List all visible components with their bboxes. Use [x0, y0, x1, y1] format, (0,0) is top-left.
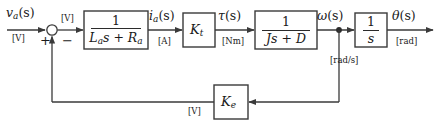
mechanical-denominator: Js + D — [266, 32, 306, 45]
summing-plus-sign: + — [40, 33, 51, 48]
unit-label-feedback: [V] — [188, 107, 201, 116]
unit-label-speed: [rad/s] — [330, 56, 358, 65]
unit-label-position: [rad] — [396, 37, 417, 46]
signal-label-current: ia(s) — [149, 10, 175, 24]
signal-torque-main: τ — [218, 8, 225, 23]
signal-position-tail: (s) — [400, 8, 416, 23]
torque-constant-main: K — [190, 22, 200, 37]
electrical-denominator: Las + Ra — [89, 31, 142, 46]
signal-label-input: va(s) — [6, 7, 35, 21]
summing-minus-sign: − — [62, 33, 73, 48]
unit-label-current: [A] — [158, 37, 171, 46]
block-electrical: 1 Las + Ra — [86, 13, 146, 47]
signal-input-tail: (s) — [18, 5, 34, 20]
signal-input-main: v — [6, 5, 13, 20]
unit-label-input: [V] — [12, 34, 25, 43]
signal-speed-tail: (s) — [327, 8, 343, 23]
signal-position-main: θ — [392, 8, 400, 23]
mechanical-numerator: 1 — [282, 15, 290, 28]
signal-torque-tail: (s) — [225, 8, 241, 23]
signal-speed-main: ω — [317, 8, 327, 23]
signal-label-torque: τ(s) — [218, 10, 241, 23]
block-back-emf: Ke — [221, 95, 236, 110]
signal-label-speed: ω(s) — [317, 10, 343, 23]
signal-current-tail: (s) — [158, 8, 174, 23]
electrical-den-tail: s + R — [103, 30, 137, 45]
block-diagram: va(s) [V] + − [V] 1 Las + Ra ia(s) [A] K… — [0, 0, 440, 130]
electrical-den-sub2: a — [137, 36, 142, 46]
block-integrator: 1 s — [357, 14, 385, 46]
electrical-numerator: 1 — [112, 14, 120, 27]
torque-constant-sub: t — [200, 28, 204, 38]
back-emf-sub: e — [231, 100, 236, 110]
integrator-denominator: s — [368, 32, 374, 45]
back-emf-main: K — [221, 94, 231, 109]
unit-label-torque: [Nm] — [222, 37, 244, 46]
integrator-numerator: 1 — [367, 15, 375, 28]
block-torque-constant: Kt — [190, 23, 203, 38]
electrical-den-main: L — [89, 30, 97, 45]
signal-label-position: θ(s) — [392, 10, 416, 23]
block-mechanical: 1 Js + D — [257, 13, 315, 47]
unit-label-error: [V] — [61, 14, 74, 23]
